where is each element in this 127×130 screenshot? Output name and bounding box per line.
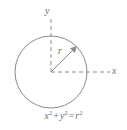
caption-plus-operator: + (52, 110, 60, 121)
x-axis-label: x (112, 66, 116, 76)
circle-equation-figure: y x r x2+y2=r2 (0, 0, 127, 130)
y-axis-label: y (45, 6, 49, 16)
radius-label: r (58, 46, 62, 56)
equation-caption: x2+y2=r2 (0, 110, 127, 121)
caption-exponent-r: 2 (79, 109, 82, 116)
radius-arrow-line (51, 48, 75, 72)
